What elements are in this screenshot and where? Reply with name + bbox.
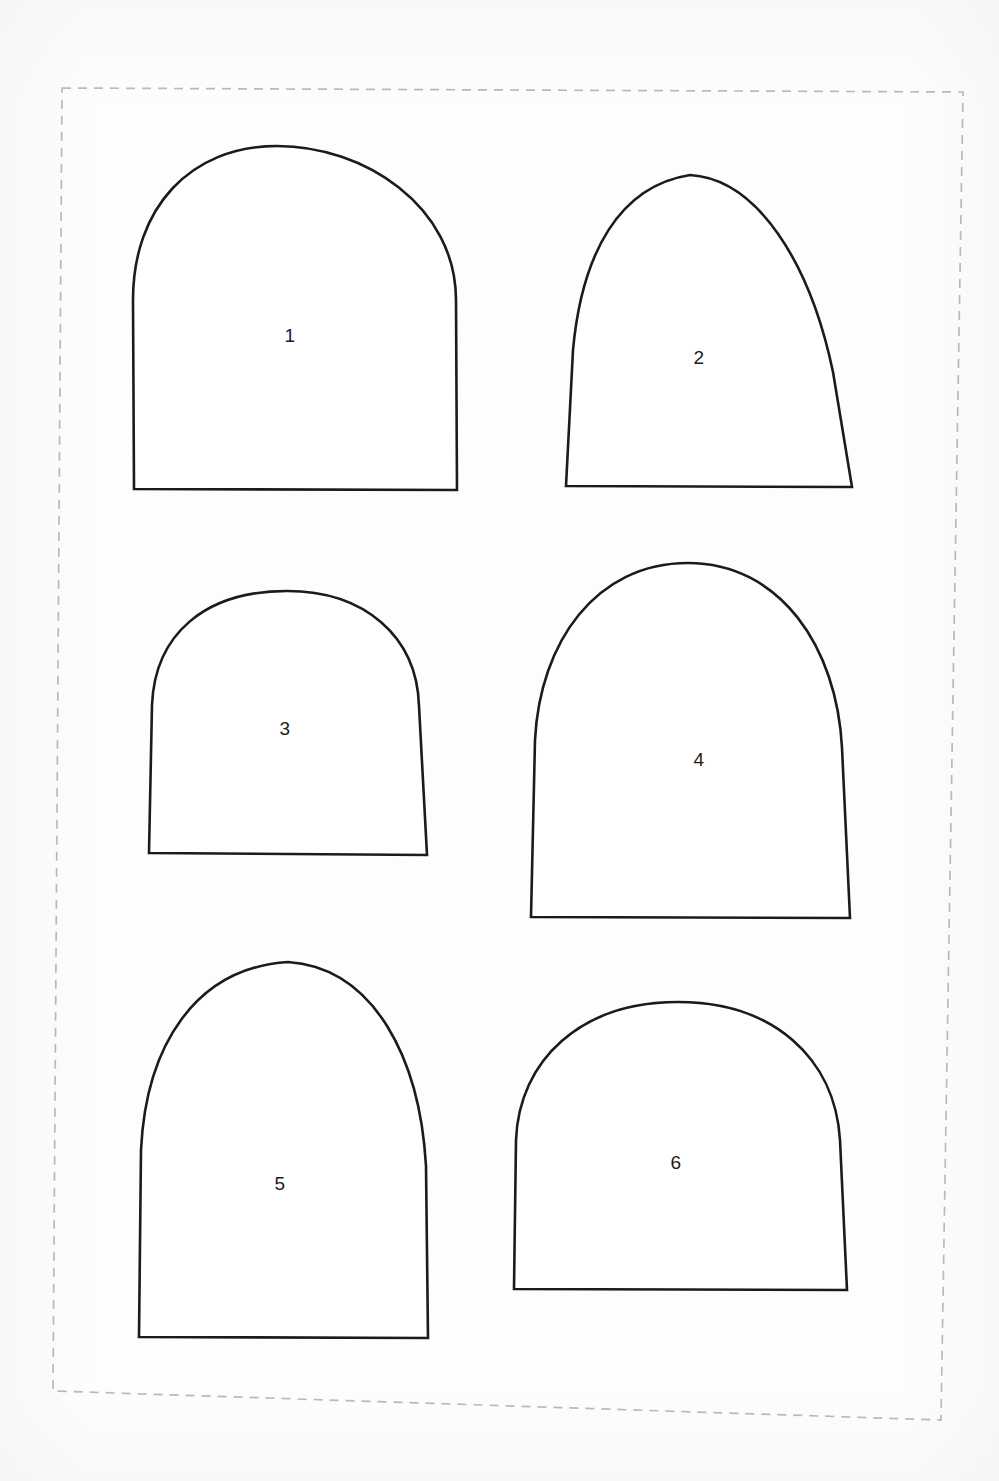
arch-label-6: 6 bbox=[671, 1153, 682, 1172]
arch-label-5: 5 bbox=[275, 1174, 286, 1193]
arch-label-1: 1 bbox=[285, 326, 296, 345]
template-sheet-page: 1 2 3 4 5 6 bbox=[0, 0, 999, 1481]
arch-label-3: 3 bbox=[280, 719, 291, 738]
arch-label-4: 4 bbox=[694, 750, 705, 769]
arch-labels-layer: 1 2 3 4 5 6 bbox=[0, 0, 999, 1481]
arch-label-2: 2 bbox=[694, 348, 705, 367]
